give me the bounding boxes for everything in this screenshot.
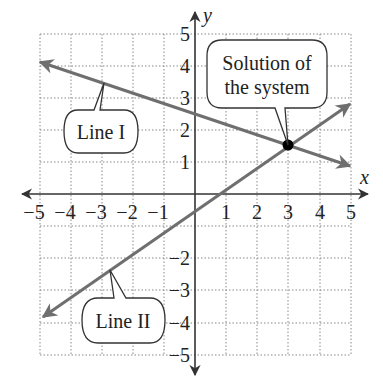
x-tick-labels: −5 −4 −3 −2 −1 1 2 3 4 5: [23, 201, 356, 223]
svg-text:−2: −2: [169, 247, 190, 269]
svg-text:−4: −4: [54, 201, 75, 223]
svg-text:−5: −5: [169, 344, 190, 366]
svg-text:2: 2: [180, 119, 190, 141]
callout-solution: Solution of the system: [207, 40, 327, 145]
svg-text:3: 3: [180, 87, 190, 109]
svg-text:1: 1: [221, 201, 231, 223]
svg-text:1: 1: [180, 151, 190, 173]
svg-text:5: 5: [346, 201, 356, 223]
svg-text:−5: −5: [23, 201, 44, 223]
svg-text:−4: −4: [169, 312, 190, 334]
svg-text:−3: −3: [169, 279, 190, 301]
svg-text:2: 2: [252, 201, 262, 223]
svg-text:Solution of: Solution of: [222, 52, 312, 74]
svg-text:4: 4: [180, 55, 190, 77]
svg-text:Line I: Line I: [77, 121, 125, 143]
y-axis-label: y: [201, 4, 212, 27]
svg-text:4: 4: [315, 201, 325, 223]
svg-text:−2: −2: [116, 201, 137, 223]
svg-text:−3: −3: [85, 201, 106, 223]
svg-text:−1: −1: [147, 201, 168, 223]
svg-text:3: 3: [283, 201, 293, 223]
svg-text:Line II: Line II: [96, 310, 151, 332]
coordinate-plane-figure: x y −5 −4 −3 −2 −1 1 2 3 4 5 1 2 3 4 5 −…: [0, 0, 383, 380]
callout-line-1: Line I: [64, 83, 138, 153]
svg-text:the system: the system: [225, 76, 310, 99]
svg-text:5: 5: [180, 23, 190, 45]
x-axis-label: x: [359, 166, 369, 188]
